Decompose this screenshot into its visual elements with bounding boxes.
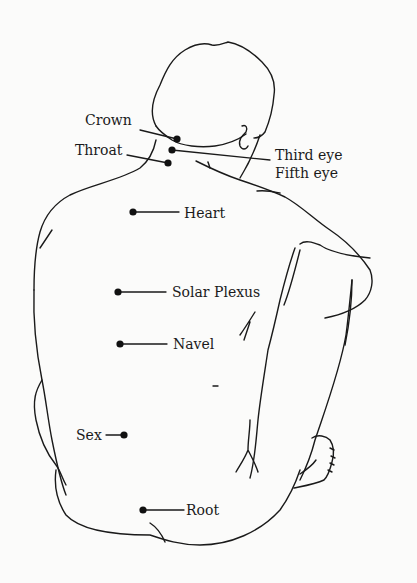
- neck-left: [34, 140, 156, 290]
- label-sex: Sex: [76, 427, 102, 443]
- back-left: [34, 290, 66, 495]
- heart-dot: [129, 208, 136, 215]
- throat-dot: [164, 159, 171, 166]
- shoulder-crease: [257, 191, 280, 193]
- label-root: Root: [186, 502, 219, 518]
- head-outline: [153, 42, 275, 138]
- label-third-eye: Third eye: [275, 147, 342, 163]
- navel-dot: [116, 340, 123, 347]
- crown-dot: [173, 135, 180, 142]
- back-left-mark: [40, 230, 52, 248]
- label-crown: Crown: [85, 112, 132, 128]
- jaw-outline: [156, 126, 246, 147]
- solar-plexus-dot: [114, 288, 121, 295]
- label-fifth-eye: Fifth eye: [275, 165, 338, 181]
- arm-inner: [250, 248, 295, 478]
- arm-outer: [300, 280, 352, 480]
- crown-pointer-line: [140, 130, 177, 139]
- label-solar-plexus: Solar Plexus: [172, 284, 260, 300]
- arm-fork: [240, 312, 255, 340]
- third-eye-pointer-line: [172, 150, 270, 160]
- label-navel: Navel: [173, 336, 214, 352]
- label-heart: Heart: [184, 205, 225, 221]
- neck-right: [240, 135, 260, 178]
- sex-dot: [120, 431, 127, 438]
- third-eye-dot: [168, 146, 175, 153]
- spine-line: [236, 420, 258, 472]
- label-throat: Throat: [75, 142, 122, 158]
- throat-pointer-line: [127, 155, 168, 163]
- buttocks-outline: [55, 470, 300, 545]
- root-dot: [139, 506, 146, 513]
